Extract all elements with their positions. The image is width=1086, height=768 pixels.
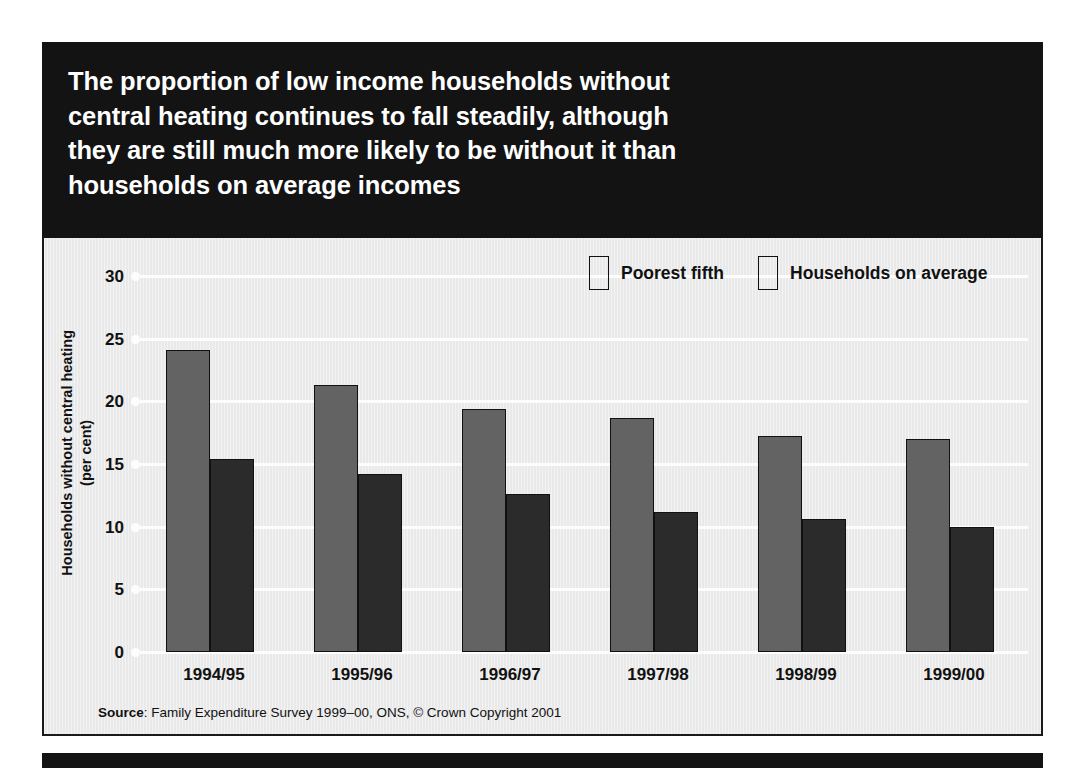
bar-households-on-average: [802, 519, 846, 652]
chart-legend: Poorest fifth Households on average: [589, 256, 987, 290]
y-tick-label: 30: [105, 268, 124, 285]
y-tick-label: 0: [115, 644, 124, 661]
headline-line-3: they are still much more likely to be wi…: [68, 133, 1017, 168]
y-tick-dot-icon: [131, 272, 140, 281]
bar-group: 1998/99: [732, 276, 880, 652]
x-category-label: 1997/98: [584, 665, 732, 685]
figure: The proportion of low income households …: [42, 42, 1043, 736]
chart-panel: Poorest fifth Households on average Hous…: [42, 238, 1043, 736]
x-category-label: 1995/96: [288, 665, 436, 685]
y-tick-dot-icon: [131, 335, 140, 344]
bar-poorest-fifth: [906, 439, 950, 652]
bar-group: 1996/97: [436, 276, 584, 652]
bar-group: 1994/95: [140, 276, 288, 652]
bottom-black-bar: [42, 753, 1043, 768]
legend-label-households-on-average: Households on average: [790, 263, 987, 284]
bar-households-on-average: [654, 512, 698, 652]
source-label: Source: [98, 705, 144, 720]
headline-line-4: households on average incomes: [68, 168, 1017, 203]
source-text: Family Expenditure Survey 1999–00, ONS, …: [151, 705, 561, 720]
y-tick-dot-icon: [131, 523, 140, 532]
bar-poorest-fifth: [462, 409, 506, 652]
legend-swatch-icon-households-on-average: [758, 256, 778, 290]
source-note: Source: Family Expenditure Survey 1999–0…: [98, 705, 561, 720]
y-axis-title-line-1: Households without central heating: [59, 330, 75, 576]
legend-swatch-icon-poorest-fifth: [589, 256, 609, 290]
bar-poorest-fifth: [610, 418, 654, 652]
bar-group: 1999/00: [880, 276, 1028, 652]
bar-poorest-fifth: [314, 385, 358, 652]
y-axis-title: Households without central heating (per …: [54, 238, 100, 668]
bar-group: 1997/98: [584, 276, 732, 652]
y-tick-label: 10: [105, 518, 124, 535]
x-category-label: 1999/00: [880, 665, 1028, 685]
x-category-label: 1996/97: [436, 665, 584, 685]
y-tick-dot-icon: [131, 460, 140, 469]
headline-line-2: central heating continues to fall steadi…: [68, 99, 1017, 134]
y-tick-label: 20: [105, 393, 124, 410]
y-tick-dot-icon: [131, 397, 140, 406]
bar-group: 1995/96: [288, 276, 436, 652]
legend-item-poorest-fifth: Poorest fifth: [589, 256, 724, 290]
legend-label-poorest-fifth: Poorest fifth: [621, 263, 724, 284]
y-axis-title-line-2: (per cent): [78, 420, 94, 486]
bar-households-on-average: [358, 474, 402, 652]
x-category-label: 1994/95: [140, 665, 288, 685]
y-tick-dot-icon: [131, 585, 140, 594]
legend-item-households-on-average: Households on average: [758, 256, 987, 290]
bar-poorest-fifth: [758, 436, 802, 652]
y-tick-label: 5: [115, 581, 124, 598]
bar-households-on-average: [950, 527, 994, 652]
bar-poorest-fifth: [166, 350, 210, 652]
bar-households-on-average: [506, 494, 550, 652]
headline-line-1: The proportion of low income households …: [68, 64, 1017, 99]
y-tick-label: 15: [105, 456, 124, 473]
plot-area: 0510152025301994/951995/961996/971997/98…: [140, 276, 1028, 652]
x-category-label: 1998/99: [732, 665, 880, 685]
headline-banner: The proportion of low income households …: [42, 42, 1043, 238]
y-tick-dot-icon: [131, 648, 140, 657]
y-tick-label: 25: [105, 330, 124, 347]
bar-households-on-average: [210, 459, 254, 652]
